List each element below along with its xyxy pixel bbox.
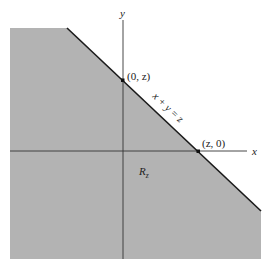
region-label-sub: z bbox=[145, 171, 149, 180]
point-0-z bbox=[121, 79, 125, 83]
point-label-z-0: (z, 0) bbox=[202, 137, 226, 150]
point-z-0 bbox=[197, 150, 201, 154]
x-axis-label: x bbox=[251, 145, 257, 157]
point-label-0-z: (0, z) bbox=[127, 70, 151, 83]
y-axis-label: y bbox=[119, 7, 125, 19]
diagram-svg: y x (0, z) (z, 0) x + y = z Rz bbox=[0, 0, 273, 270]
diagram-figure: y x (0, z) (z, 0) x + y = z Rz bbox=[0, 0, 273, 270]
